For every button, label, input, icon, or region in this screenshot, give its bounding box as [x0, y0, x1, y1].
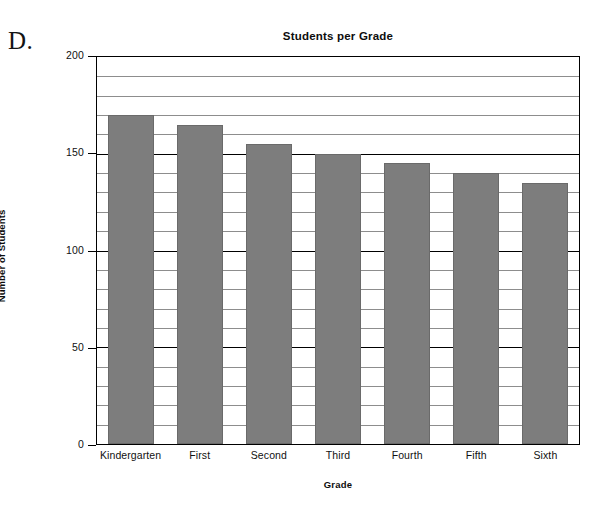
x-axis-tick-label: Sixth [511, 449, 580, 461]
x-axis-tick-label: Fourth [373, 449, 442, 461]
bar [453, 173, 499, 444]
y-axis-tick-label: 200 [40, 49, 84, 61]
x-axis-tick-labels: KindergartenFirstSecondThirdFourthFifthS… [96, 449, 580, 461]
figure-letter-label: D. [8, 28, 33, 53]
bar [384, 163, 430, 444]
bar-slot [235, 57, 304, 444]
bar [315, 154, 361, 444]
y-axis-tick-label: 50 [40, 341, 84, 353]
y-axis-title: Number of Students [0, 186, 7, 326]
x-axis-tick-label: Third [303, 449, 372, 461]
y-axis-tick [88, 348, 96, 349]
x-axis-tick-label: Kindergarten [96, 449, 165, 461]
y-axis-tick-label: 0 [40, 438, 84, 450]
y-axis-tick [88, 56, 96, 57]
bar [246, 144, 292, 444]
bar-slot [304, 57, 373, 444]
bar-slot [166, 57, 235, 444]
x-axis-tick-label: Fifth [442, 449, 511, 461]
chart-title: Students per Grade [96, 30, 580, 42]
y-axis-tick [88, 251, 96, 252]
bar-slot [441, 57, 510, 444]
plot-area [96, 56, 580, 445]
y-axis-tick-label: 150 [40, 146, 84, 158]
bar [177, 125, 223, 444]
bar-slot [372, 57, 441, 444]
bars-group [97, 57, 579, 444]
figure-page: D. Students per Grade Number of Students… [0, 0, 615, 522]
bar-slot [510, 57, 579, 444]
x-axis-tick-label: First [165, 449, 234, 461]
y-axis-tick [88, 445, 96, 446]
plot-inner [97, 57, 579, 444]
x-axis-tick-label: Second [234, 449, 303, 461]
bar [522, 183, 568, 444]
bar-slot [97, 57, 166, 444]
y-axis-tick [88, 153, 96, 154]
x-axis-title: Grade [96, 479, 580, 490]
bar [108, 115, 154, 444]
y-axis-tick-label: 100 [40, 244, 84, 256]
